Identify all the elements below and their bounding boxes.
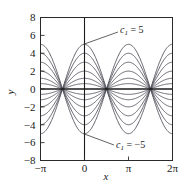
y-axis-title: y (4, 89, 16, 95)
y-axis-tick-labels: 86420−2−4−6−8 (24, 11, 36, 166)
annotation-upper: c1 = 5 (83, 24, 143, 44)
annotation-upper-text: c1 = 5 (120, 24, 144, 37)
y-tick-label: 2 (30, 65, 36, 77)
x-axis-ticks (84, 157, 128, 161)
x-tick-label: 0 (82, 162, 88, 174)
x-tick-label: 2π (167, 162, 179, 174)
figure-container: 86420−2−4−6−8 −π0π2π c1 = 5 c1 = −5 x y (0, 0, 189, 186)
y-tick-label: 8 (30, 11, 36, 23)
zero-axes (41, 18, 173, 161)
y-tick-label: 6 (30, 29, 36, 41)
x-tick-label: π (126, 162, 132, 174)
y-tick-label: 0 (30, 83, 36, 95)
y-tick-label: −6 (24, 136, 36, 148)
x-tick-label: −π (35, 162, 47, 174)
y-tick-label: −4 (24, 119, 36, 131)
y-axis-ticks (41, 35, 45, 142)
y-tick-label: 4 (30, 47, 36, 59)
annotation-lower-text: c1 = −5 (116, 139, 145, 152)
annotation-lower: c1 = −5 (83, 134, 145, 153)
y-tick-label: −2 (24, 101, 36, 113)
plot-svg: 86420−2−4−6−8 −π0π2π c1 = 5 c1 = −5 x y (0, 0, 189, 186)
x-axis-title: x (103, 170, 109, 182)
